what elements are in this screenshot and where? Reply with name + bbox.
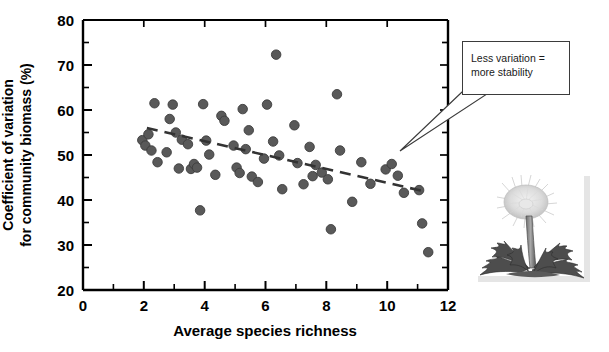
scatter-point bbox=[332, 90, 342, 100]
x-tick-label-10: 10 bbox=[379, 298, 396, 313]
scatter-point bbox=[244, 126, 254, 136]
scatter-point bbox=[417, 219, 427, 229]
scatter-point bbox=[150, 99, 160, 109]
scatter-point bbox=[238, 104, 248, 114]
scatter-point bbox=[299, 180, 309, 190]
scatter-point bbox=[168, 100, 178, 110]
scatter-point bbox=[220, 116, 230, 126]
x-tick-label-12: 12 bbox=[440, 298, 457, 313]
scatter-point bbox=[144, 130, 154, 140]
scatter-point bbox=[366, 179, 376, 189]
scatter-points-group bbox=[138, 50, 433, 257]
y-tick-label-50: 50 bbox=[30, 148, 74, 163]
scatter-point bbox=[195, 206, 205, 216]
x-axis-title: Average species richness bbox=[173, 322, 357, 339]
scatter-point bbox=[162, 148, 172, 158]
scatter-point bbox=[235, 168, 245, 178]
x-tick-label-6: 6 bbox=[261, 298, 269, 313]
y-axis-major-ticks bbox=[83, 20, 92, 290]
scatter-point bbox=[192, 163, 202, 173]
y-tick-label-30: 30 bbox=[30, 238, 74, 253]
scatter-point bbox=[290, 121, 300, 131]
scatter-point bbox=[399, 188, 409, 198]
x-tick-label-4: 4 bbox=[201, 298, 209, 313]
scatter-point bbox=[308, 171, 318, 181]
scatter-point bbox=[211, 170, 221, 180]
scatter-point bbox=[347, 197, 357, 207]
scatter-point bbox=[147, 146, 157, 156]
y-tick-label-70: 70 bbox=[30, 58, 74, 73]
scatter-point bbox=[326, 225, 336, 235]
x-tick-label-2: 2 bbox=[140, 298, 148, 313]
y-axis-title: Coefficient of variation for community b… bbox=[0, 63, 35, 247]
x-axis-major-ticks bbox=[83, 281, 448, 290]
scatter-point bbox=[174, 164, 184, 174]
y-tick-label-40: 40 bbox=[30, 193, 74, 208]
scatter-point bbox=[323, 175, 333, 185]
scatter-point bbox=[204, 150, 214, 160]
scatter-point bbox=[153, 157, 163, 167]
scatter-point bbox=[277, 184, 287, 194]
x-tick-label-0: 0 bbox=[79, 298, 87, 313]
scatter-point bbox=[198, 99, 208, 109]
scatter-point bbox=[268, 137, 278, 147]
annotation-leader-line bbox=[400, 92, 487, 151]
annotation-line-1: Less variation = bbox=[471, 52, 562, 66]
top-spine-ticks bbox=[144, 20, 387, 27]
scatter-point bbox=[183, 139, 193, 149]
scatter-point bbox=[165, 114, 175, 124]
scatter-point bbox=[305, 142, 315, 152]
scatter-point bbox=[253, 177, 263, 187]
scatter-plot-figure: 80 70 60 50 40 30 20 0 2 4 6 8 10 12 Ave… bbox=[0, 0, 609, 352]
scatter-point bbox=[357, 157, 367, 167]
x-tick-label-8: 8 bbox=[322, 298, 330, 313]
scatter-point bbox=[271, 50, 281, 60]
scatter-point bbox=[335, 146, 345, 156]
scatter-point bbox=[262, 100, 272, 110]
scatter-point bbox=[393, 171, 403, 181]
scatter-point bbox=[423, 247, 433, 257]
y-tick-label-80: 80 bbox=[30, 13, 74, 28]
annotation-line-2: more stability bbox=[471, 66, 562, 80]
y-tick-label-60: 60 bbox=[30, 103, 74, 118]
dandelion-illustration bbox=[466, 168, 592, 286]
scatter-point bbox=[387, 159, 397, 169]
annotation-callout: Less variation = more stability bbox=[462, 41, 570, 95]
y-tick-label-20: 20 bbox=[30, 283, 74, 298]
trendline bbox=[147, 128, 427, 192]
